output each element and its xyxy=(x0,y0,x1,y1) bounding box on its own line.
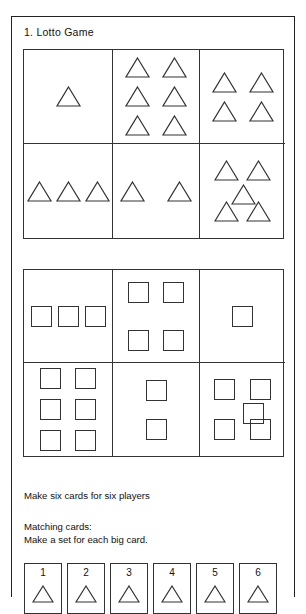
small-card-2[interactable]: 2 xyxy=(67,563,105,614)
shape-group xyxy=(24,270,112,362)
shape-group xyxy=(200,144,285,238)
big-card-triangle-3[interactable] xyxy=(200,50,285,144)
square-icon xyxy=(58,306,79,327)
shape-group xyxy=(24,144,112,238)
triangle-icon xyxy=(125,86,150,107)
square-icon xyxy=(250,419,271,440)
square-icon xyxy=(75,430,96,451)
small-card-number: 1 xyxy=(25,567,61,578)
triangle-icon xyxy=(246,201,271,222)
square-icon xyxy=(75,399,96,420)
triangle-icon xyxy=(162,57,187,78)
big-card-triangle-1[interactable] xyxy=(24,50,113,144)
square-icon xyxy=(214,379,235,400)
square-icon xyxy=(40,430,61,451)
big-card-square-1[interactable] xyxy=(24,270,113,363)
square-icon xyxy=(163,330,184,351)
triangle-icon xyxy=(120,181,145,202)
square-icon xyxy=(250,379,271,400)
instruction-make-a-set: Make a set for each big card. xyxy=(24,533,148,546)
triangle-icon xyxy=(212,101,237,122)
shape-group xyxy=(200,270,285,362)
square-icon xyxy=(128,330,149,351)
shape-group xyxy=(200,363,285,456)
triangle-icon xyxy=(85,181,110,202)
small-card-number: 4 xyxy=(154,567,190,578)
square-icon xyxy=(146,380,167,401)
shape-group xyxy=(30,363,106,456)
triangle-icon xyxy=(161,585,183,603)
big-card-square-2[interactable] xyxy=(113,270,200,363)
triangle-icon xyxy=(249,101,274,122)
triangle-icon xyxy=(204,585,226,603)
small-card-3[interactable]: 3 xyxy=(110,563,148,614)
small-card-number: 3 xyxy=(111,567,147,578)
shape-group xyxy=(141,363,171,456)
small-card-6[interactable]: 6 xyxy=(239,563,277,614)
square-icon xyxy=(128,282,149,303)
shape-group xyxy=(24,50,112,143)
small-card-number: 5 xyxy=(197,567,233,578)
square-icon xyxy=(31,306,52,327)
triangle-icon xyxy=(214,201,239,222)
big-card-square-5[interactable] xyxy=(113,363,200,456)
big-card-square-4[interactable] xyxy=(24,363,113,456)
square-icon xyxy=(146,419,167,440)
triangle-icon xyxy=(246,160,271,181)
triangle-icon xyxy=(56,181,81,202)
shape-group xyxy=(113,144,199,238)
big-card-square-3[interactable] xyxy=(200,270,285,363)
big-card-triangle-2[interactable] xyxy=(113,50,200,144)
triangle-icon xyxy=(125,57,150,78)
shape-group xyxy=(204,50,282,143)
small-card-number: 6 xyxy=(240,567,276,578)
big-card-triangle-5[interactable] xyxy=(113,144,200,238)
square-icon xyxy=(232,306,253,327)
triangle-icon xyxy=(214,160,239,181)
triangle-icon xyxy=(118,585,140,603)
triangle-icon xyxy=(167,181,192,202)
square-icon xyxy=(75,368,96,389)
instruction-make-six-cards: Make six cards for six players xyxy=(24,489,150,502)
instruction-matching-cards-heading: Matching cards: xyxy=(24,520,92,533)
big-card-triangle-4[interactable] xyxy=(24,144,113,238)
small-card-5[interactable]: 5 xyxy=(196,563,234,614)
small-card-4[interactable]: 4 xyxy=(153,563,191,614)
triangle-icon xyxy=(32,585,54,603)
triangle-card-grid xyxy=(23,49,284,239)
triangle-icon xyxy=(212,72,237,93)
shape-group xyxy=(117,270,195,362)
small-card-1[interactable]: 1 xyxy=(24,563,62,614)
small-card-row: 1 2 3 4 5 6 xyxy=(24,563,280,614)
square-icon xyxy=(214,419,235,440)
square-icon xyxy=(85,306,106,327)
triangle-icon xyxy=(249,72,274,93)
big-card-square-6[interactable] xyxy=(200,363,285,456)
shape-group xyxy=(118,50,194,143)
triangle-icon xyxy=(125,115,150,136)
square-icon xyxy=(40,368,61,389)
triangle-icon xyxy=(75,585,97,603)
triangle-icon xyxy=(247,585,269,603)
triangle-icon xyxy=(162,115,187,136)
triangle-icon xyxy=(56,86,81,107)
triangle-icon xyxy=(27,181,52,202)
square-icon xyxy=(163,282,184,303)
big-card-triangle-6[interactable] xyxy=(200,144,285,238)
page-title: 1. Lotto Game xyxy=(24,26,94,38)
small-card-number: 2 xyxy=(68,567,104,578)
square-card-grid xyxy=(23,269,284,457)
worksheet-page: 1. Lotto Game xyxy=(11,16,295,597)
triangle-icon xyxy=(162,86,187,107)
square-icon xyxy=(40,399,61,420)
